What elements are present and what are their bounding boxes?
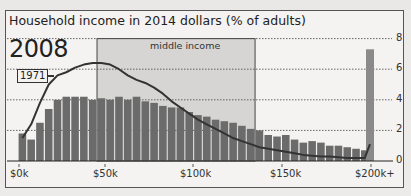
bar bbox=[300, 143, 308, 161]
bar bbox=[45, 109, 53, 161]
bar bbox=[27, 140, 35, 161]
bar bbox=[36, 123, 44, 161]
bar bbox=[142, 101, 150, 161]
bar bbox=[291, 140, 299, 161]
bar bbox=[221, 121, 229, 161]
bar bbox=[317, 143, 325, 161]
bar bbox=[352, 149, 360, 161]
y-tick-label: 6 bbox=[396, 62, 402, 73]
x-tick-label: $50k bbox=[93, 168, 118, 179]
bar bbox=[326, 146, 334, 161]
y-tick-label: 2 bbox=[396, 123, 402, 134]
bar bbox=[71, 97, 79, 161]
bar bbox=[238, 126, 246, 161]
bar bbox=[229, 123, 237, 161]
bar bbox=[273, 137, 281, 161]
bar bbox=[124, 100, 132, 161]
bar bbox=[168, 107, 176, 161]
y-tick-label: 4 bbox=[396, 93, 402, 104]
bar bbox=[335, 146, 343, 161]
bar bbox=[185, 112, 193, 161]
x-tick-label: $200k+ bbox=[355, 168, 395, 179]
year-label: 2008 bbox=[9, 35, 68, 63]
x-tick-label: $100k bbox=[180, 168, 211, 179]
bar bbox=[150, 103, 158, 161]
bar bbox=[80, 97, 88, 161]
bar bbox=[212, 120, 220, 161]
bar bbox=[159, 106, 167, 161]
bar bbox=[98, 98, 106, 161]
bar bbox=[89, 100, 97, 161]
y-tick-label: 8 bbox=[396, 32, 402, 43]
y-tick-label: 0 bbox=[396, 154, 402, 165]
bar bbox=[63, 97, 71, 161]
bar bbox=[282, 135, 290, 161]
bar bbox=[177, 107, 185, 161]
bar bbox=[106, 100, 114, 161]
x-tick-label: $150k bbox=[270, 168, 301, 179]
bar bbox=[54, 100, 62, 161]
x-tick-label: $0k bbox=[10, 168, 29, 179]
middle-income-label: middle income bbox=[150, 40, 220, 51]
chart-plot bbox=[0, 0, 411, 196]
bar bbox=[133, 97, 141, 161]
bar bbox=[308, 141, 316, 161]
bar bbox=[115, 97, 123, 161]
line-label-1971: 1971 bbox=[17, 69, 48, 83]
